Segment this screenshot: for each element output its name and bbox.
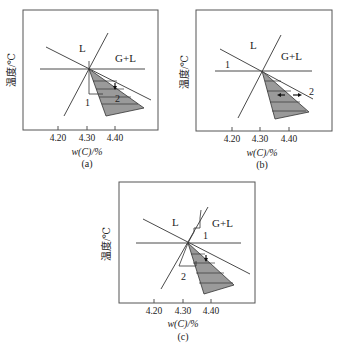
xtick-label: 4.40 [203,306,220,316]
xtick-label: 4.30 [79,133,96,143]
x-axis-label: w(C)/% [246,147,277,159]
region-label-GL: G+L [212,217,233,229]
y-axis-label: 温度/℃ [100,227,112,261]
panel-a: L G+L 1 2 4.20 4.30 4.40 w(C)/% (a) 温度/℃ [5,10,158,170]
path-label-2: 2 [309,86,314,97]
path-label-1: 1 [203,230,208,241]
y-axis-label: 温度/℃ [5,53,17,87]
xtick-label: 4.20 [224,134,241,144]
xtick-label: 4.20 [50,133,67,143]
xtick-label: 4.30 [252,134,269,144]
path-label-2: 2 [181,271,186,282]
figure-canvas: L G+L 1 2 4.20 4.30 4.40 w(C)/% (a) 温度/℃… [0,0,339,354]
y-axis-label: 温度/℃ [178,55,190,89]
xtick-label: 4.40 [107,133,124,143]
region-label-L: L [79,42,86,54]
panel-c: L G+L 1 2 4.20 4.30 4.40 w(C)/% (c) 温度/℃ [100,182,255,343]
x-axis-label: w(C)/% [71,146,102,158]
region-label-GL: G+L [115,52,136,64]
panel-caption: (b) [256,159,268,171]
path-label-2: 2 [115,93,120,104]
xtick-label: 4.40 [281,134,298,144]
path-label-1: 1 [225,59,230,70]
path-label-1: 1 [85,97,90,108]
panel-caption: (a) [81,158,92,170]
region-label-L: L [172,216,179,228]
xtick-label: 4.30 [175,306,192,316]
region-label-L: L [250,39,257,51]
xtick-label: 4.20 [146,306,163,316]
panel-b: L G+L 1 2 4.20 4.30 4.40 w(C)/% (b) 温度/℃ [178,10,332,171]
panel-caption: (c) [177,331,188,343]
x-axis-label: w(C)/% [167,318,198,330]
shaded-region [188,243,234,294]
region-label-GL: G+L [281,50,302,62]
